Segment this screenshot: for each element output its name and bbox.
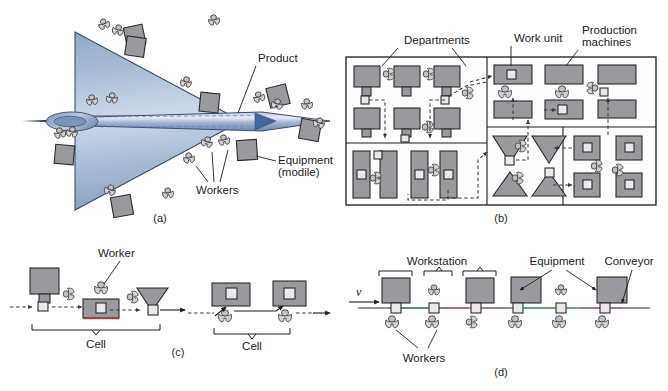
production-machine — [434, 66, 460, 87]
equipment — [466, 278, 494, 303]
work-unit — [583, 143, 592, 152]
label-production-machines-line1: Production — [582, 24, 637, 36]
label-conveyor: Conveyor — [604, 255, 653, 267]
label-worker: Worker — [98, 247, 135, 259]
label-workers-a: Workers — [196, 184, 239, 196]
work-unit — [507, 70, 516, 79]
equipment — [597, 277, 627, 303]
label-product: Product — [258, 52, 298, 64]
machine-base — [442, 87, 451, 96]
work-unit — [429, 303, 439, 313]
work-unit — [505, 156, 514, 165]
production-machine — [354, 108, 380, 129]
production-machine — [545, 65, 583, 84]
work-unit — [558, 105, 567, 114]
work-unit — [38, 302, 48, 311]
production-machine — [434, 108, 460, 129]
machine-base — [442, 129, 451, 137]
work-unit — [513, 303, 523, 313]
label-departments: Departments — [404, 34, 470, 46]
equipment-cart — [236, 139, 257, 160]
equipment-cart — [110, 194, 133, 217]
production-machine — [30, 268, 59, 294]
panel-caption-d: (d) — [494, 366, 507, 378]
work-unit — [625, 143, 634, 152]
production-machine — [354, 66, 380, 87]
label-cell-left: Cell — [86, 338, 106, 350]
equipment-cart — [199, 92, 220, 113]
manufacturing-layouts-figure: Product Equipment (modile) Workers (a) — [0, 0, 668, 391]
panel-caption-b: (b) — [494, 212, 507, 224]
work-unit — [357, 170, 366, 179]
panel-caption-a: (a) — [153, 212, 166, 224]
work-unit — [401, 135, 409, 142]
work-unit — [583, 180, 592, 189]
label-equipment-d: Equipment — [530, 255, 586, 267]
work-unit — [361, 96, 369, 104]
machine-base — [362, 87, 371, 96]
work-unit — [226, 288, 237, 299]
work-unit — [374, 151, 382, 159]
equipment — [511, 277, 541, 303]
work-unit — [600, 88, 608, 96]
work-unit — [625, 180, 634, 189]
work-unit — [415, 170, 424, 179]
label-workstation: Workstation — [407, 255, 468, 267]
label-workers-d: Workers — [403, 352, 446, 364]
production-machine — [394, 108, 420, 129]
label-equipment: Equipment — [278, 154, 334, 166]
canopy-glass — [54, 116, 86, 126]
equipment-cart — [54, 144, 75, 165]
work-unit — [96, 303, 106, 313]
work-unit — [391, 303, 401, 313]
label-production-machines-line2: machines — [582, 36, 631, 48]
label-cell-right: Cell — [242, 340, 262, 352]
label-work-unit: Work unit — [514, 32, 563, 44]
production-machine — [494, 101, 532, 118]
work-unit — [556, 303, 566, 313]
work-unit — [148, 305, 158, 315]
work-unit — [600, 303, 610, 313]
equipment-cart — [125, 36, 146, 57]
production-machine — [598, 65, 636, 84]
machine-base — [402, 87, 411, 96]
equipment — [382, 278, 410, 303]
work-unit — [471, 303, 481, 313]
production-machine — [598, 100, 636, 118]
label-velocity: v — [356, 285, 362, 299]
work-unit — [444, 170, 453, 179]
work-unit — [545, 168, 554, 177]
work-unit — [284, 288, 295, 299]
label-equipment-note: (modile) — [278, 166, 320, 178]
machine-base — [362, 129, 371, 137]
production-machine — [394, 66, 420, 87]
panel-caption-c: (c) — [172, 346, 185, 358]
